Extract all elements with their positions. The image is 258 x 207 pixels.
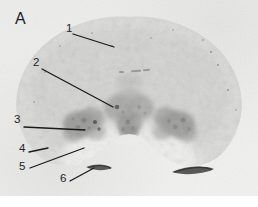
annotation-label-2: 2 — [33, 57, 39, 69]
annotation-label-3: 3 — [14, 114, 20, 126]
annotation-label-4: 4 — [19, 143, 25, 155]
label-layer: A 1 2 3 4 5 6 — [0, 0, 258, 207]
panel-letter-label: A — [15, 11, 26, 27]
figure-panel: A 1 2 3 4 5 6 — [0, 0, 258, 207]
annotation-label-5: 5 — [19, 161, 25, 173]
annotation-label-6: 6 — [60, 173, 66, 185]
annotation-label-1: 1 — [66, 23, 72, 35]
